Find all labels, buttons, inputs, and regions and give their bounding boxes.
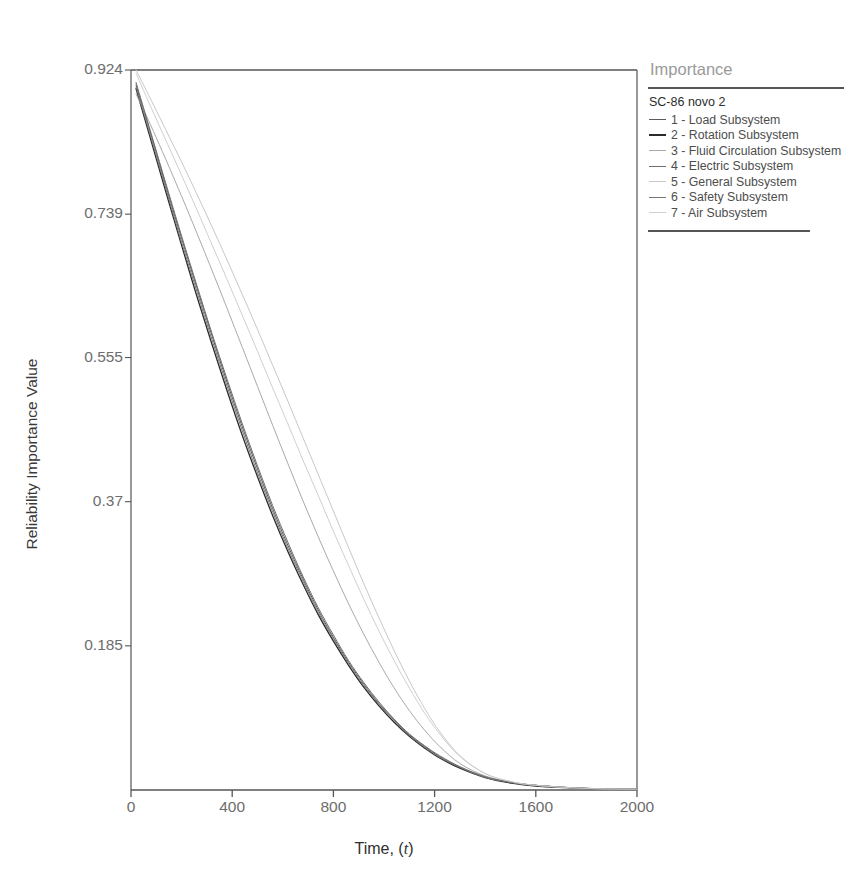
y-tick-label: 0.924 (43, 60, 123, 78)
legend-line-icon (649, 134, 666, 136)
legend-item-label: 1 - Load Subsystem (671, 113, 780, 127)
legend-item-label: 4 - Electric Subsystem (671, 159, 793, 173)
legend-divider-bottom (648, 230, 810, 232)
legend-item[interactable]: 3 - Fluid Circulation Subsystem (648, 143, 852, 159)
legend-item-label: 3 - Fluid Circulation Subsystem (671, 144, 841, 158)
y-axis-ticks: 0.1850.370.5550.7390.924 (38, 0, 123, 887)
y-tick-label: 0.185 (43, 636, 123, 654)
legend-line-icon (649, 197, 666, 198)
plot-area: 0.1850.370.5550.7390.924 Reliability Imp… (0, 0, 660, 887)
legend-line-icon (649, 166, 666, 167)
legend-title: Importance (650, 60, 852, 79)
legend-item-label: 5 - General Subsystem (671, 175, 797, 189)
legend-item[interactable]: 7 - Air Subsystem (648, 205, 852, 221)
x-axis-label-variable: t (404, 840, 408, 857)
y-axis-label: Reliability Importance Value (23, 274, 41, 634)
legend: Importance SC-86 novo 2 1 - Load Subsyst… (648, 60, 852, 238)
x-axis-label: Time, (t) (131, 840, 637, 858)
series-line-2 (136, 89, 637, 790)
legend-item[interactable]: 1 - Load Subsystem (648, 112, 852, 128)
y-tick-label: 0.739 (43, 204, 123, 222)
x-tick-label: 1600 (501, 798, 571, 816)
legend-item-label: 6 - Safety Subsystem (671, 190, 788, 204)
series-line-3 (136, 94, 637, 789)
legend-item[interactable]: 5 - General Subsystem (648, 174, 852, 190)
legend-line-icon (649, 150, 666, 151)
series-line-1 (136, 85, 637, 789)
legend-group-label: SC-86 novo 2 (649, 95, 852, 109)
legend-line-icon (649, 181, 666, 182)
legend-item-label: 7 - Air Subsystem (671, 206, 767, 220)
legend-item[interactable]: 2 - Rotation Subsystem (648, 128, 852, 144)
x-tick-label: 1200 (400, 798, 470, 816)
legend-item[interactable]: 4 - Electric Subsystem (648, 159, 852, 175)
legend-item[interactable]: 6 - Safety Subsystem (648, 190, 852, 206)
legend-items: 1 - Load Subsystem2 - Rotation Subsystem… (648, 112, 852, 221)
y-tick-label: 0.37 (43, 492, 123, 510)
series-line-6 (136, 87, 637, 789)
legend-line-icon (649, 119, 666, 120)
legend-line-icon (649, 212, 666, 213)
x-tick-label: 0 (96, 798, 166, 816)
x-tick-label: 800 (298, 798, 368, 816)
legend-item-label: 2 - Rotation Subsystem (671, 128, 799, 142)
y-tick-label: 0.555 (43, 348, 123, 366)
legend-divider-top (648, 87, 844, 89)
x-tick-label: 2000 (602, 798, 672, 816)
series-line-5 (136, 70, 637, 789)
x-tick-label: 400 (197, 798, 267, 816)
series-line-4 (136, 82, 637, 789)
series-line-7 (136, 73, 637, 789)
